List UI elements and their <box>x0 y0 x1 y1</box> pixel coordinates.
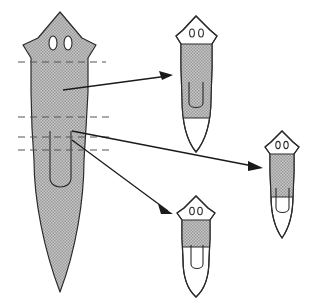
eyespot-right <box>199 29 204 37</box>
regenerate-top-right <box>172 16 222 152</box>
arrow-to-bottom-middle-head <box>158 204 173 214</box>
regenerate-right-graft-band <box>262 154 302 197</box>
regenerate-right <box>262 131 302 238</box>
regeneration-diagram <box>0 0 310 306</box>
arrow-to-bottom-middle-line <box>72 140 168 211</box>
eyespot-right <box>64 36 72 50</box>
arrow-to-right <box>72 131 263 171</box>
eyespot-right <box>284 141 288 148</box>
donor-worm-body <box>23 12 96 292</box>
figure-root <box>0 0 310 306</box>
arrow-to-top-right-head <box>159 71 173 80</box>
eyespot-left <box>190 29 195 37</box>
eyespot-left <box>49 36 57 50</box>
donor-worm <box>18 12 112 292</box>
regenerate-top-right-graft-band <box>172 44 222 118</box>
eyespot-left <box>190 207 195 215</box>
regenerate-bottom-middle <box>174 196 216 297</box>
eyespot-right <box>198 207 203 215</box>
arrow-to-right-head <box>248 161 263 171</box>
arrow-to-bottom-middle <box>72 140 173 214</box>
arrow-to-right-line <box>72 131 258 167</box>
eyespot-left <box>276 141 280 148</box>
